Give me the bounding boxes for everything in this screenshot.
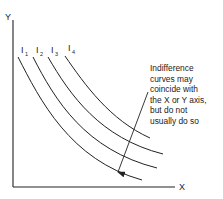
x-axis-label: X: [179, 182, 185, 192]
annotation-line: but do not: [150, 105, 223, 116]
indifference-curve-i2: [33, 57, 157, 168]
curve-label-i3: I 3: [51, 45, 58, 57]
curve-label-i1: I 1: [21, 45, 28, 57]
indifference-curve-i1: [18, 57, 142, 180]
svg-text:3: 3: [55, 51, 58, 57]
annotation-line: the X or Y axis,: [150, 95, 223, 106]
annotation-line: Indifference: [150, 63, 223, 74]
svg-text:I: I: [36, 45, 39, 55]
svg-text:I: I: [51, 45, 54, 55]
svg-text:4: 4: [72, 49, 75, 55]
svg-text:I: I: [21, 45, 24, 55]
annotation-text: Indifference curves may coincide with th…: [150, 63, 223, 127]
annotation-line: coincide with: [150, 84, 223, 95]
svg-text:2: 2: [40, 51, 43, 57]
annotation-line: usually do so: [150, 116, 223, 127]
indifference-curve-i3: [48, 57, 163, 154]
svg-text:1: 1: [25, 51, 28, 57]
curve-label-i4: I 4: [68, 43, 75, 55]
y-axis-label: Y: [5, 12, 11, 22]
svg-text:I: I: [68, 43, 71, 53]
annotation-line: curves may: [150, 74, 223, 85]
indifference-curve-i4: [65, 56, 150, 138]
curve-label-i2: I 2: [36, 45, 43, 57]
